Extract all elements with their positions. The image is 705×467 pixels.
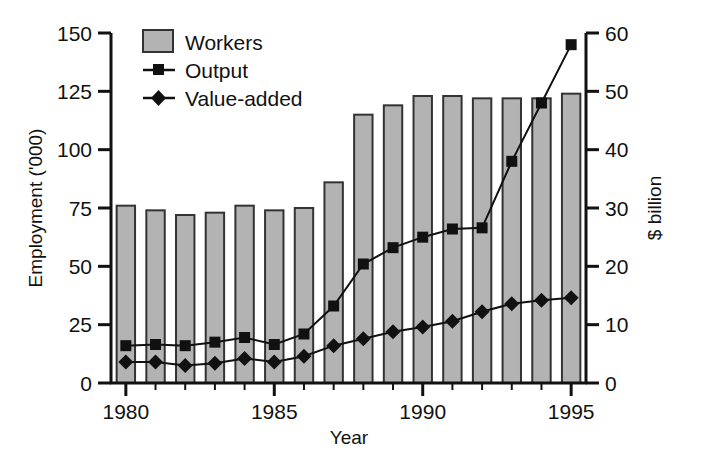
bar-1994 — [532, 98, 550, 383]
legend-swatch-workers — [143, 30, 173, 52]
marker-output-1990 — [417, 232, 428, 243]
marker-output-1994 — [536, 98, 547, 109]
right-tick-label-60: 60 — [605, 22, 628, 45]
marker-output-1983 — [209, 337, 220, 348]
x-tick-label-1985: 1985 — [251, 400, 298, 423]
left-tick-label-0: 0 — [80, 372, 92, 395]
right-tick-label-20: 20 — [605, 255, 628, 278]
x-tick-label-1990: 1990 — [399, 400, 446, 423]
legend-label-value-added: Value-added — [185, 87, 303, 110]
right-tick-label-10: 10 — [605, 313, 628, 336]
left-tick-label-25: 25 — [69, 313, 92, 336]
left-tick-label-50: 50 — [69, 255, 92, 278]
legend-label-workers: Workers — [185, 31, 263, 54]
legend-swatch-output — [153, 64, 164, 75]
marker-output-1987 — [328, 301, 339, 312]
marker-output-1992 — [477, 222, 488, 233]
left-tick-label-75: 75 — [69, 197, 92, 220]
x-tick-label-1980: 1980 — [102, 400, 149, 423]
bar-1995 — [562, 94, 580, 383]
bar-1993 — [503, 98, 521, 383]
left-tick-label-150: 150 — [57, 22, 92, 45]
marker-output-1985 — [269, 339, 280, 350]
bar-1992 — [473, 98, 491, 383]
marker-output-1981 — [150, 339, 161, 350]
marker-output-1995 — [566, 39, 577, 50]
right-tick-label-30: 30 — [605, 197, 628, 220]
left-tick-label-100: 100 — [57, 138, 92, 161]
marker-output-1991 — [447, 224, 458, 235]
marker-output-1980 — [120, 340, 131, 351]
marker-output-1989 — [388, 242, 399, 253]
bar-1991 — [443, 96, 461, 383]
y2-axis-title: $ billion — [644, 176, 665, 240]
marker-output-1984 — [239, 332, 250, 343]
right-tick-label-40: 40 — [605, 138, 628, 161]
left-tick-label-125: 125 — [57, 80, 92, 103]
chart-figure: 0255075100125150 0102030405060 198019851… — [0, 0, 705, 467]
marker-output-1982 — [180, 340, 191, 351]
x-axis-title: Year — [330, 427, 369, 448]
marker-output-1986 — [298, 329, 309, 340]
employment-output-value-added-chart: 0255075100125150 0102030405060 198019851… — [0, 0, 705, 467]
right-tick-label-50: 50 — [605, 80, 628, 103]
x-tick-label-1995: 1995 — [548, 400, 595, 423]
marker-output-1993 — [506, 156, 517, 167]
legend-label-output: Output — [185, 59, 248, 82]
right-tick-label-0: 0 — [605, 372, 617, 395]
y-axis-title: Employment ('000) — [25, 129, 46, 288]
marker-output-1988 — [358, 259, 369, 270]
bar-1982 — [176, 215, 194, 383]
chart-background — [0, 0, 705, 467]
